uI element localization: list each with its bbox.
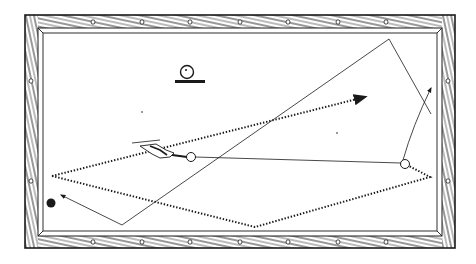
cloth xyxy=(43,33,437,231)
billiard-diagram xyxy=(0,0,476,264)
speck xyxy=(336,132,338,134)
table-frame xyxy=(25,15,455,248)
speck xyxy=(141,111,143,113)
rail-left xyxy=(25,15,38,248)
black-ball xyxy=(47,199,56,208)
object-ball xyxy=(401,160,410,169)
rail-right xyxy=(442,15,455,248)
cue-ball xyxy=(187,153,196,162)
